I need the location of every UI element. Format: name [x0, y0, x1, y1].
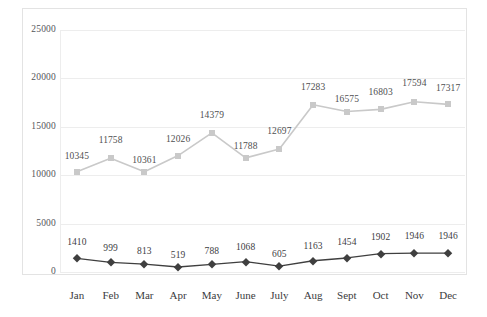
data-point-marker[interactable]: [276, 146, 282, 152]
x-tick-label: June: [236, 290, 256, 301]
data-point-label: 788: [205, 247, 220, 257]
data-point-label: 17283: [301, 83, 325, 93]
data-point-marker[interactable]: [74, 169, 80, 175]
x-tick-label: Feb: [102, 290, 119, 301]
y-axis: 0500010000150002000025000: [0, 0, 56, 317]
data-point-label: 16575: [335, 95, 359, 105]
x-tick-label: Dec: [439, 290, 457, 301]
data-point-marker[interactable]: [243, 155, 249, 161]
data-point-label: 11788: [234, 142, 258, 152]
gridline: [60, 175, 465, 176]
y-tick-label: 20000: [4, 73, 56, 83]
x-tick-label: Mar: [135, 290, 153, 301]
data-point-label: 16803: [369, 88, 393, 98]
y-tick-label: 0: [4, 267, 56, 277]
data-point-label: 813: [137, 247, 152, 257]
data-point-label: 17594: [402, 79, 426, 89]
data-point-label: 1068: [236, 243, 255, 253]
data-point-label: 1902: [371, 233, 390, 243]
gridline: [60, 272, 465, 273]
y-tick-label: 15000: [4, 122, 56, 132]
x-tick-label: July: [270, 290, 288, 301]
data-point-marker[interactable]: [344, 109, 350, 115]
data-point-marker[interactable]: [108, 155, 114, 161]
data-point-label: 1946: [438, 232, 457, 242]
gridline: [60, 127, 465, 128]
data-point-label: 1163: [304, 242, 323, 252]
y-tick-label: 5000: [4, 219, 56, 229]
x-tick-label: Apr: [170, 290, 187, 301]
data-point-marker[interactable]: [209, 130, 215, 136]
line-chart: 0500010000150002000025000 JanFebMarAprMa…: [0, 0, 487, 317]
data-point-label: 10345: [65, 152, 89, 162]
data-point-marker[interactable]: [411, 99, 417, 105]
data-point-label: 605: [272, 250, 287, 260]
data-point-marker[interactable]: [445, 101, 451, 107]
x-axis: JanFebMarAprMayJuneJulyAugSeptOctNovDec: [60, 290, 465, 310]
x-tick-label: Oct: [373, 290, 389, 301]
x-tick-label: May: [202, 290, 222, 301]
data-point-label: 1410: [67, 238, 86, 248]
data-point-marker[interactable]: [141, 169, 147, 175]
data-point-label: 11758: [99, 136, 123, 146]
gridline: [60, 30, 465, 31]
data-point-label: 12026: [166, 135, 190, 145]
x-tick-label: Nov: [405, 290, 424, 301]
data-point-label: 14379: [200, 111, 224, 121]
x-tick-label: Aug: [304, 290, 323, 301]
data-point-label: 1946: [405, 232, 424, 242]
data-point-label: 12697: [267, 127, 291, 137]
data-point-marker[interactable]: [175, 153, 181, 159]
gridline: [60, 224, 465, 225]
y-tick-label: 25000: [4, 25, 56, 35]
y-tick-label: 10000: [4, 170, 56, 180]
data-point-label: 10361: [132, 156, 156, 166]
data-point-label: 17317: [436, 84, 460, 94]
data-point-marker[interactable]: [310, 102, 316, 108]
x-tick-label: Jan: [70, 290, 85, 301]
x-tick-label: Sept: [337, 290, 357, 301]
data-point-label: 519: [171, 251, 186, 261]
data-point-label: 1454: [337, 238, 356, 248]
data-point-label: 999: [103, 244, 118, 254]
data-point-marker[interactable]: [378, 106, 384, 112]
